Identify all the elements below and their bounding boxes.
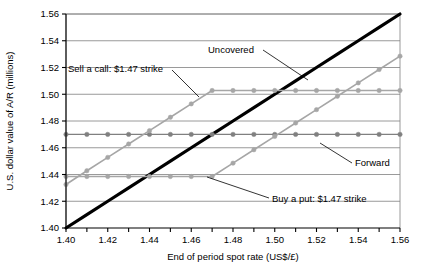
data-point [377, 67, 381, 71]
x-tick-label: 1.44 [140, 234, 159, 245]
data-point [398, 88, 402, 92]
annotation-label: Uncovered [208, 44, 254, 55]
annotation-forward: Forward [320, 143, 390, 168]
data-point [231, 132, 235, 136]
data-point [377, 88, 381, 92]
x-tick-label: 1.50 [266, 234, 285, 245]
annotation-leader-line [172, 70, 199, 97]
y-axis-title: U.S. dollar value of A/R (millions) [4, 52, 15, 191]
data-point [85, 169, 89, 173]
y-tick-label: 1.44 [41, 169, 60, 180]
data-point [85, 174, 89, 178]
annotation-sell-a-call: Sell a call: $1.47 strike [68, 63, 199, 97]
data-point [168, 115, 172, 119]
data-point [252, 88, 256, 92]
chart-container: 1.401.421.441.461.481.501.521.541.561.40… [0, 0, 425, 280]
data-point [273, 134, 277, 138]
data-point [293, 132, 297, 136]
data-point [398, 54, 402, 58]
data-point [231, 161, 235, 165]
data-point [147, 128, 151, 132]
data-point [126, 132, 130, 136]
x-tick-label: 1.48 [224, 234, 243, 245]
x-tick-label: 1.54 [349, 234, 368, 245]
data-point [126, 142, 130, 146]
data-point [273, 88, 277, 92]
data-point [210, 132, 214, 136]
annotation-uncovered: Uncovered [208, 44, 308, 80]
data-point [189, 132, 193, 136]
data-point [106, 174, 110, 178]
x-tick-label: 1.40 [57, 234, 76, 245]
data-point [377, 132, 381, 136]
data-point [210, 88, 214, 92]
data-point [356, 132, 360, 136]
spot-rate-payoff-chart: 1.401.421.441.461.481.501.521.541.561.40… [0, 0, 425, 280]
data-point [293, 88, 297, 92]
data-point [231, 88, 235, 92]
data-point [314, 132, 318, 136]
data-point [293, 121, 297, 125]
data-point [168, 174, 172, 178]
data-point [106, 155, 110, 159]
annotation-label: Sell a call: $1.47 strike [68, 63, 163, 74]
x-tick-label: 1.46 [182, 234, 201, 245]
data-point [106, 132, 110, 136]
data-point [335, 88, 339, 92]
data-point [335, 132, 339, 136]
annotation-leader-line [320, 143, 352, 163]
y-tick-label: 1.40 [41, 222, 60, 233]
series-forward [64, 132, 402, 136]
data-point [252, 132, 256, 136]
x-tick-label: 1.52 [307, 234, 326, 245]
x-axis: 1.401.421.441.461.481.501.521.541.56 [57, 228, 410, 245]
annotation-label: Buy a put: $1.47 strike [272, 193, 367, 204]
y-tick-label: 1.54 [41, 35, 60, 46]
y-tick-label: 1.56 [41, 8, 60, 19]
data-point [126, 174, 130, 178]
data-point [314, 88, 318, 92]
data-point [398, 132, 402, 136]
y-tick-label: 1.52 [41, 62, 60, 73]
annotation-leader-line [207, 177, 269, 198]
series-line [66, 56, 400, 176]
y-tick-label: 1.46 [41, 142, 60, 153]
gridlines [66, 14, 400, 201]
y-axis: 1.401.421.441.461.481.501.521.541.56 [41, 8, 67, 233]
data-point [314, 107, 318, 111]
annotation-buy-a-put: Buy a put: $1.47 strike [207, 177, 367, 204]
data-point [189, 174, 193, 178]
data-point [356, 88, 360, 92]
x-tick-label: 1.56 [391, 234, 410, 245]
annotation-leader-line [263, 50, 308, 80]
data-point [147, 174, 151, 178]
y-tick-label: 1.48 [41, 115, 60, 126]
x-tick-label: 1.42 [99, 234, 118, 245]
series-line [66, 91, 400, 185]
data-point [85, 132, 89, 136]
data-point [168, 132, 172, 136]
data-point [335, 94, 339, 98]
data-point [252, 148, 256, 152]
annotation-label: Forward [355, 157, 390, 168]
data-point [356, 81, 360, 85]
y-tick-label: 1.50 [41, 89, 60, 100]
y-tick-label: 1.42 [41, 196, 60, 207]
series-sell-a-call-1-47-strike [64, 88, 402, 186]
data-point [189, 102, 193, 106]
x-axis-title: End of period spot rate (US$/£) [167, 251, 299, 262]
